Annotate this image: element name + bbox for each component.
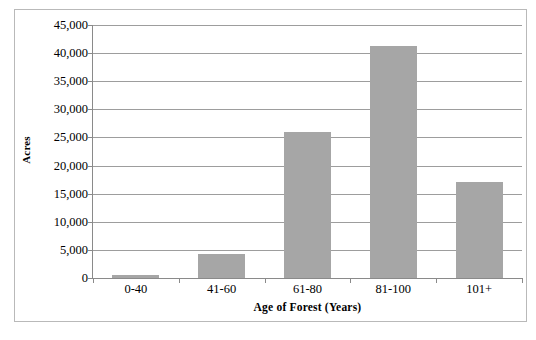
y-axis-tick-label: 25,000 <box>30 130 88 145</box>
y-axis-tick-label: 15,000 <box>30 186 88 201</box>
bar[interactable] <box>198 254 245 278</box>
bar[interactable] <box>284 132 331 278</box>
y-axis-tick-label: 20,000 <box>30 158 88 173</box>
bar-chart-figure: Acres 05,00010,00015,00020,00025,00030,0… <box>0 0 536 340</box>
y-axis-tick-label: 40,000 <box>30 46 88 61</box>
bar-slot <box>436 25 522 278</box>
y-axis-tick-label: 10,000 <box>30 214 88 229</box>
bar-slot <box>265 25 351 278</box>
y-axis-tick-label: 30,000 <box>30 102 88 117</box>
bar[interactable] <box>456 182 503 278</box>
y-axis-tick-label: 5,000 <box>30 242 88 257</box>
x-axis-tick-label: 101+ <box>436 282 522 297</box>
y-axis-tick-label: 35,000 <box>30 74 88 89</box>
x-axis-baseline <box>93 278 522 279</box>
bar[interactable] <box>112 275 159 278</box>
x-axis-tick-labels: 0-4041-6061-8081-100101+ <box>93 282 522 297</box>
x-axis-tick-label: 0-40 <box>93 282 179 297</box>
plot-area <box>93 25 522 278</box>
x-axis-tick-label: 81-100 <box>350 282 436 297</box>
bar-slot <box>179 25 265 278</box>
bar-slot <box>350 25 436 278</box>
bar-slot <box>93 25 179 278</box>
x-axis-title: Age of Forest (Years) <box>93 301 522 313</box>
y-axis-tick-label: 0 <box>30 271 88 286</box>
x-axis-tick-mark <box>522 278 523 283</box>
bar[interactable] <box>370 46 417 278</box>
bars-container <box>93 25 522 278</box>
y-axis-tick-labels: 05,00010,00015,00020,00025,00030,00035,0… <box>30 18 88 278</box>
y-axis-tick-label: 45,000 <box>30 18 88 33</box>
x-axis-tick-label: 41-60 <box>179 282 265 297</box>
x-axis-tick-label: 61-80 <box>265 282 351 297</box>
